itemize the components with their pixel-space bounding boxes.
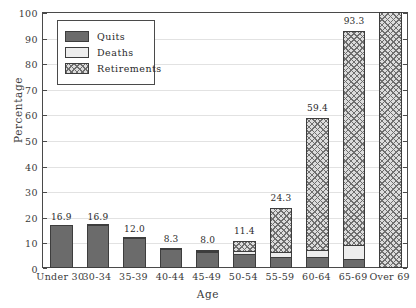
x-tick-label: 60-64 [302,271,331,282]
bar-value-label: 93.3 [344,16,365,26]
bar-group[interactable]: 59.4 [306,115,329,267]
x-axis-title: Age [0,288,416,300]
y-tick-label: 20 [25,212,38,223]
bar-value-label: 8.3 [164,234,179,244]
bar-group[interactable]: 8.3 [160,246,183,267]
legend-label-quits: Quits [97,31,125,42]
y-axis-title: Percentage [12,62,24,158]
legend-item-quits: Quits [65,29,146,44]
bar-segment-quits [233,254,256,268]
y-tick-mark [43,268,47,269]
y-tick-label: 60 [25,110,38,121]
bar-segment-retirements [306,118,329,251]
bar-segment-quits [270,257,293,268]
y-tick-label: 10 [25,238,38,249]
bar-segment-quits [160,249,183,268]
legend-swatch-quits-icon [65,31,89,42]
legend-item-deaths: Deaths [65,45,146,60]
bar-value-label: 11.4 [234,226,255,236]
legend-label-retirements: Retirements [97,63,162,74]
bar-value-label: 16.9 [51,212,72,222]
x-tick-label: Under 30 [36,271,84,282]
y-tick-mark [403,268,407,269]
x-tick-label: Over 69 [369,271,410,282]
bar-value-label: 8.0 [200,235,215,245]
y-tick-label: 40 [25,161,38,172]
bar-group[interactable]: 16.9 [87,224,110,267]
bar-group[interactable]: 16.9 [50,224,73,267]
bar-segment-quits [123,238,146,268]
bar-group[interactable]: 11.4 [233,238,256,267]
x-tick-label: 65-69 [339,271,368,282]
bar-group[interactable] [379,11,402,267]
y-tick-label: 70 [25,84,38,95]
bar-segment-quits [306,257,329,268]
legend-item-retirements: Retirements [65,61,146,76]
bar-segment-retirements [379,12,402,268]
y-tick-label: 90 [25,33,38,44]
bar-value-label: 16.9 [87,212,108,222]
y-tick-label: 100 [19,8,38,19]
x-tick-label: 50-54 [229,271,258,282]
legend-swatch-deaths-icon [65,47,89,58]
bar-segment-quits [196,252,219,268]
bar-group[interactable]: 8.0 [196,247,219,267]
x-tick-label: 45-49 [192,271,221,282]
y-tick-label: 30 [25,187,38,198]
bar-value-label: 24.3 [270,193,291,203]
bar-group[interactable]: 12.0 [123,236,146,267]
bar-group[interactable]: 93.3 [343,28,366,267]
y-tick-label: 50 [25,136,38,147]
legend-swatch-retirements-icon [65,63,89,74]
x-tick-label: 30-34 [82,271,111,282]
x-tick-label: 35-39 [119,271,148,282]
legend-label-deaths: Deaths [97,47,134,58]
y-tick-label: 80 [25,59,38,70]
bar-segment-quits [87,225,110,268]
legend: Quits Deaths Retirements [57,20,155,85]
x-tick-label: 55-59 [265,271,294,282]
stacked-bar-chart: Percentage Age 0102030405060708090100 16… [0,0,416,308]
bar-group[interactable]: 24.3 [270,205,293,267]
bar-segment-quits [50,225,73,268]
bar-value-label: 12.0 [124,224,145,234]
bar-segment-retirements [343,31,366,246]
x-tick-label: 40-44 [156,271,185,282]
bar-segment-quits [343,259,366,268]
bar-segment-retirements [270,208,293,254]
bar-value-label: 59.4 [307,103,328,113]
bar-segment-deaths [343,245,366,260]
